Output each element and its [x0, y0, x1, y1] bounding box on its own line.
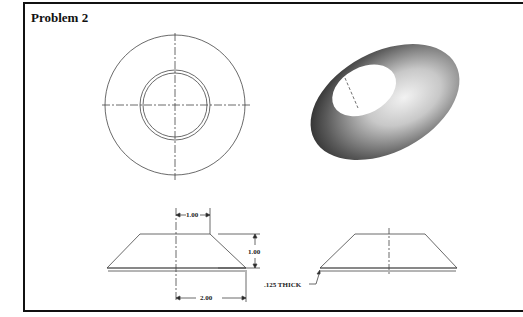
top-view [102, 33, 250, 180]
dim-top-width: 1.00 [186, 211, 199, 219]
dim-thickness: .125 THICK [264, 281, 302, 289]
dim-height: 1.00 [248, 248, 261, 256]
section-view-plain [309, 228, 457, 284]
dim-base: 2.00 [200, 294, 213, 302]
isometric-view [291, 20, 479, 183]
section-view-dimensioned [107, 208, 260, 302]
